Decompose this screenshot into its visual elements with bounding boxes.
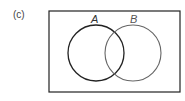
set-b-label: B [130, 13, 137, 25]
set-a-label: A [90, 13, 98, 25]
set-a-circle [68, 25, 124, 81]
venn-diagram: A B [0, 0, 185, 101]
set-b-circle [105, 25, 161, 81]
